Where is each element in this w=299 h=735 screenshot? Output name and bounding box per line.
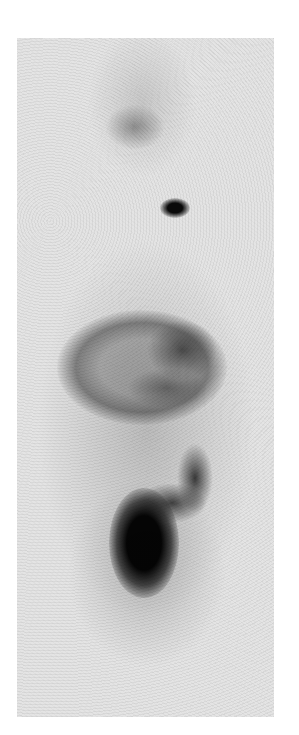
scintigraphy-image	[17, 38, 274, 717]
noise-texture	[17, 38, 274, 717]
